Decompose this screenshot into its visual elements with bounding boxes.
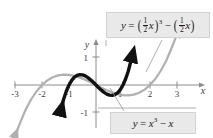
eq-term1-top: ( 1 2 x ) 3 [137, 17, 162, 33]
y-axis-label: y [84, 39, 90, 50]
eq-equals-top: = [128, 20, 134, 31]
y-tick-label--1: -1 [81, 108, 89, 118]
frac-denominator-1: 2 [143, 25, 149, 34]
equation-text-gray: y = ( 1 2 x ) 3 − ( 1 2 x ) [121, 17, 195, 33]
leader-line-top-to-curve [146, 40, 162, 72]
x-tick-label--2: -2 [38, 89, 46, 99]
x-tick-label--3: -3 [11, 89, 19, 99]
fraction-one-half-1: 1 2 [143, 17, 149, 33]
figure-container: -3 -2 -1 1 2 3 1 -1 x y y = ( 1 2 [0, 0, 213, 138]
x-axis-label: x [200, 85, 206, 96]
eq-minus-bottom: − [160, 118, 166, 129]
eq-term-bottom: x [168, 118, 173, 129]
equation-text-black: y = x 3 − x [133, 118, 174, 129]
eq-term2-top: ( 1 2 x ) [173, 17, 195, 33]
paren-open-1: ( [138, 19, 142, 31]
eq-equals-bottom: = [140, 118, 146, 129]
paren-close-2: ) [191, 19, 195, 31]
paren-open-2: ( [174, 19, 178, 31]
x-tick-label-2: 2 [148, 89, 153, 99]
equation-callout-gray-curve: y = ( 1 2 x ) 3 − ( 1 2 x ) [106, 12, 210, 38]
eq-lhs-top: y [121, 20, 126, 31]
eq-var-bottom: x [149, 118, 154, 129]
paren-close-1: ) [154, 19, 158, 31]
eq-lhs-bottom: y [133, 118, 138, 129]
eq-minus-top: − [165, 20, 171, 31]
equation-callout-black-curve: y = x 3 − x [110, 112, 196, 134]
fraction-one-half-2: 1 2 [179, 17, 185, 33]
frac-denominator-2: 2 [179, 25, 185, 34]
frac-numerator-2: 1 [179, 17, 185, 25]
y-tick-label-1: 1 [84, 53, 89, 63]
eq-var-2: x [185, 20, 190, 31]
eq-var-1: x [149, 20, 154, 31]
x-tick-label-3: 3 [175, 89, 180, 99]
frac-numerator-1: 1 [143, 17, 149, 25]
